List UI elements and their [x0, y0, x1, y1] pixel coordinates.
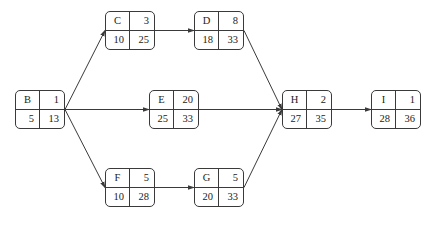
- node-c[interactable]: C 3 10 25: [105, 11, 155, 50]
- node-duration: 8: [219, 12, 243, 31]
- node-late-value: 13: [40, 110, 64, 129]
- node-early-value: 28: [372, 110, 396, 129]
- node-duration: 1: [396, 91, 420, 110]
- node-e[interactable]: E 20 25 33: [149, 90, 199, 129]
- node-activity: H: [283, 91, 307, 110]
- node-duration: 2: [307, 91, 331, 110]
- edge-b-c: [65, 31, 105, 110]
- node-activity: F: [106, 169, 130, 188]
- node-activity: C: [106, 12, 130, 31]
- node-i[interactable]: I 1 28 36: [371, 90, 421, 129]
- node-late-value: 25: [130, 31, 154, 50]
- node-late-value: 36: [396, 110, 420, 129]
- node-activity: E: [150, 91, 174, 110]
- node-early-value: 5: [16, 110, 40, 129]
- node-g[interactable]: G 5 20 33: [194, 168, 244, 207]
- node-duration: 20: [174, 91, 198, 110]
- node-late-value: 33: [219, 188, 243, 207]
- edge-g-h: [244, 110, 282, 188]
- node-activity: D: [195, 12, 219, 31]
- node-activity: I: [372, 91, 396, 110]
- node-early-value: 18: [195, 31, 219, 50]
- node-late-value: 33: [219, 31, 243, 50]
- edge-b-f: [65, 110, 105, 188]
- node-late-value: 33: [174, 110, 198, 129]
- node-late-value: 35: [307, 110, 331, 129]
- node-h[interactable]: H 2 27 35: [282, 90, 332, 129]
- node-late-value: 28: [130, 188, 154, 207]
- node-early-value: 25: [150, 110, 174, 129]
- node-d[interactable]: D 8 18 33: [194, 11, 244, 50]
- node-duration: 5: [130, 169, 154, 188]
- node-early-value: 10: [106, 31, 130, 50]
- node-duration: 5: [219, 169, 243, 188]
- node-b[interactable]: B 1 5 13: [15, 90, 65, 129]
- node-early-value: 10: [106, 188, 130, 207]
- node-f[interactable]: F 5 10 28: [105, 168, 155, 207]
- node-duration: 3: [130, 12, 154, 31]
- node-early-value: 27: [283, 110, 307, 129]
- node-early-value: 20: [195, 188, 219, 207]
- node-activity: G: [195, 169, 219, 188]
- node-duration: 1: [40, 91, 64, 110]
- node-activity: B: [16, 91, 40, 110]
- edge-d-h: [244, 31, 282, 110]
